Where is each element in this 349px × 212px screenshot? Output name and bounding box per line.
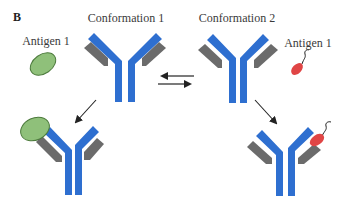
antibody-conformation-2-icon xyxy=(198,34,278,103)
arrow-to-red-complex xyxy=(255,100,276,123)
conformation-2-label: Conformation 2 xyxy=(199,11,275,25)
equilibrium-arrows-icon xyxy=(158,76,194,84)
antigen-left-label: Antigen 1 xyxy=(22,34,70,48)
complex-green-antigen-icon xyxy=(17,113,104,195)
green-antigen-icon xyxy=(26,48,60,80)
antibody-conformation-1-icon xyxy=(84,33,166,102)
panel-label: B xyxy=(13,10,21,24)
antigen-right-label: Antigen 1 xyxy=(284,36,332,50)
conformation-1-label: Conformation 1 xyxy=(88,11,164,25)
red-antigen-icon xyxy=(289,50,309,77)
antibody-conformation-diagram: B Conformation 1 Conformation 2 Antigen … xyxy=(0,0,349,212)
complex-red-antigen-icon xyxy=(247,122,331,196)
arrow-to-green-complex xyxy=(76,100,96,122)
